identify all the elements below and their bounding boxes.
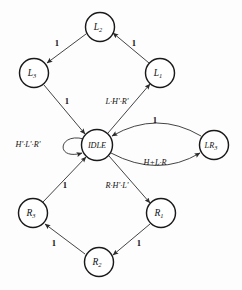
edge-label-idle-self-loop: H'·L'·R': [15, 140, 41, 149]
node-R3[interactable]: R3: [19, 199, 48, 228]
edge-idle-to-l1: [108, 84, 150, 133]
edge-label-r2-to-r3: 1: [52, 238, 56, 248]
edge-l2-to-l3: [47, 34, 86, 63]
fsm-canvas: L2 L3 L1 IDLE LR3: [0, 0, 242, 290]
edge-label-r1-to-r2: 1: [137, 238, 141, 248]
edge-l3-to-idle: [44, 85, 85, 134]
node-L2[interactable]: L2: [86, 13, 115, 42]
node-R2[interactable]: R2: [85, 248, 114, 277]
edge-label-lr3-to-idle: 1: [153, 115, 157, 125]
edge-label-r3-to-idle: 1: [63, 180, 67, 190]
node-LR3[interactable]: LR3: [200, 131, 229, 160]
node-R1[interactable]: R1: [147, 199, 176, 228]
edge-label-idle-to-lr3: H+L·R: [142, 158, 166, 167]
edge-label-l2-to-l3: 1: [55, 38, 59, 48]
node-L1[interactable]: L1: [146, 59, 175, 88]
node-IDLE[interactable]: IDLE: [82, 130, 113, 161]
edges-layer: [43, 33, 201, 255]
edge-label-l3-to-idle: 1: [65, 96, 69, 106]
node-label-IDLE: IDLE: [87, 141, 106, 150]
node-L3[interactable]: L3: [20, 59, 49, 88]
edge-r1-to-r2: [113, 224, 150, 255]
nodes-layer: L2 L3 L1 IDLE LR3: [19, 13, 229, 277]
edge-label-idle-to-l1: L·H'·R': [104, 97, 128, 106]
edge-label-idle-to-r1: R·H'·L': [104, 181, 128, 190]
edge-label-l1-to-l2: 1: [132, 38, 136, 48]
state-diagram: L2 L3 L1 IDLE LR3: [0, 0, 242, 290]
